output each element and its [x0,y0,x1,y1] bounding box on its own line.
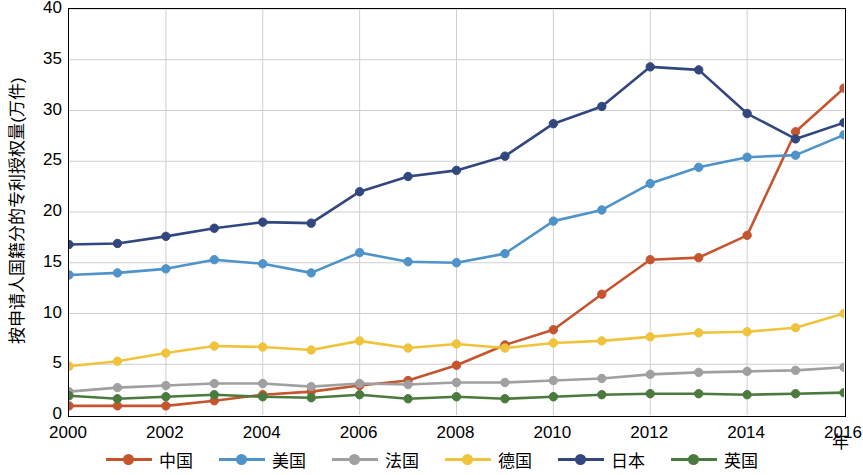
data-point [743,328,751,336]
data-point [69,392,73,400]
chart-legend: 中国美国法国德国日本英国 [0,443,863,475]
y-tick-label: 5 [53,353,62,373]
data-point [113,395,121,403]
data-point [743,231,751,239]
legend-item[interactable]: 美国 [219,447,306,472]
data-point [791,151,799,159]
legend-label: 中国 [159,447,193,472]
legend-marker-icon [575,454,586,465]
data-point [694,253,702,261]
data-point [355,188,363,196]
data-point [69,240,73,248]
data-point [743,109,751,117]
y-tick-label: 15 [43,252,62,272]
data-point [743,153,751,161]
data-point [162,381,170,389]
legend-swatch [332,452,378,466]
data-point [501,395,509,403]
y-tick-label: 35 [43,49,62,69]
data-point [791,389,799,397]
data-point [840,131,844,139]
data-point [646,370,654,378]
data-point [694,66,702,74]
data-point [452,166,460,174]
legend-label: 法国 [385,447,419,472]
legend-swatch [671,452,717,466]
data-point [452,378,460,386]
legend-swatch [219,452,265,466]
y-tick-label: 20 [43,201,62,221]
data-point [694,368,702,376]
data-point [210,342,218,350]
data-point [404,344,412,352]
data-point [791,135,799,143]
data-point [694,163,702,171]
data-point [840,84,844,92]
data-point [452,340,460,348]
data-point [791,366,799,374]
plot-area-wrapper: 0510152025303540 20002002200420062008201… [68,8,846,417]
data-point [404,380,412,388]
data-point [259,343,267,351]
legend-swatch [558,452,604,466]
legend-swatch [106,452,152,466]
legend-item[interactable]: 法国 [332,447,419,472]
data-point [694,329,702,337]
data-point [549,339,557,347]
data-point [549,326,557,334]
legend-label: 德国 [498,447,532,472]
legend-swatch [445,452,491,466]
data-point [210,379,218,387]
data-point [501,378,509,386]
data-point [404,258,412,266]
data-point [598,337,606,345]
data-point [840,309,844,317]
data-point [162,349,170,357]
data-point [646,333,654,341]
data-point [598,290,606,298]
data-point [355,248,363,256]
data-point [646,63,654,71]
data-point [162,232,170,240]
data-point [259,379,267,387]
legend-item[interactable]: 德国 [445,447,532,472]
data-point [162,402,170,410]
data-point [210,391,218,399]
data-point [549,119,557,127]
data-point [791,324,799,332]
data-point [598,206,606,214]
data-point [598,391,606,399]
data-point [307,394,315,402]
data-point [646,256,654,264]
data-point [210,256,218,264]
data-point [549,376,557,384]
data-point [452,259,460,267]
data-point [307,346,315,354]
data-point [501,344,509,352]
x-tick-label: 2006 [340,423,378,443]
y-tick-label: 10 [43,303,62,323]
data-point [549,217,557,225]
legend-item[interactable]: 中国 [106,447,193,472]
chart-canvas [69,9,844,415]
x-tick-label: 2010 [533,423,571,443]
y-tick-label: 25 [43,150,62,170]
y-axis-title: 按申请人国籍分的专利授权量(万件) [0,0,30,420]
data-point [598,374,606,382]
legend-item[interactable]: 日本 [558,447,645,472]
data-point [404,395,412,403]
legend-label: 美国 [272,447,306,472]
data-point [355,379,363,387]
data-point [113,269,121,277]
data-point [598,102,606,110]
data-point [259,393,267,401]
data-point [549,393,557,401]
data-point [210,224,218,232]
x-tick-label: 2000 [49,423,87,443]
data-point [307,382,315,390]
data-point [743,367,751,375]
x-tick-label: 2002 [146,423,184,443]
data-point [646,179,654,187]
legend-item[interactable]: 英国 [671,447,758,472]
data-point [646,389,654,397]
